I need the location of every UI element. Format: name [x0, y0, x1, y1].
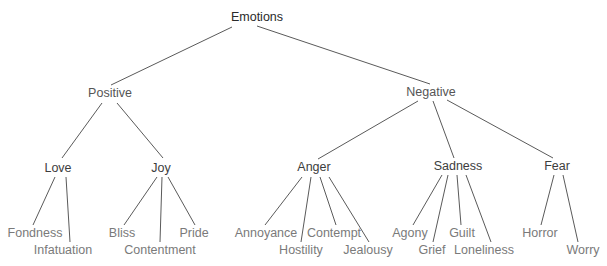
node-worry: Worry: [566, 243, 599, 257]
edge-negative-sadness: [433, 101, 454, 158]
node-sadness: Sadness: [434, 159, 483, 173]
node-infatuation: Infatuation: [34, 243, 92, 257]
node-negative: Negative: [406, 85, 455, 99]
edge-negative-fear: [447, 100, 553, 158]
node-fondness: Fondness: [8, 226, 63, 240]
node-joy: Joy: [151, 161, 170, 175]
node-hostility: Hostility: [279, 243, 323, 257]
node-horror: Horror: [522, 226, 557, 240]
node-bliss: Bliss: [109, 226, 135, 240]
node-agony: Agony: [392, 226, 427, 240]
node-contentment: Contentment: [124, 243, 196, 257]
edge-fear-horror: [541, 175, 554, 225]
edge-positive-love: [62, 103, 102, 158]
edge-positive-joy: [117, 103, 163, 158]
node-loneliness: Loneliness: [454, 243, 514, 257]
edge-emotions-positive: [111, 27, 232, 85]
node-anger: Anger: [297, 160, 330, 174]
node-positive: Positive: [88, 86, 132, 100]
edge-negative-anger: [318, 101, 418, 159]
edge-joy-contentment: [160, 177, 162, 242]
edge-emotions-negative: [257, 26, 430, 84]
edge-fear-worry: [563, 175, 578, 242]
node-jealousy: Jealousy: [343, 243, 392, 257]
edge-sadness-grief: [433, 175, 448, 242]
edge-sadness-agony: [413, 175, 442, 225]
edge-love-fondness: [33, 177, 55, 225]
node-guilt: Guilt: [449, 226, 475, 240]
node-pride: Pride: [179, 226, 208, 240]
edge-joy-pride: [168, 177, 195, 225]
edge-anger-annoyance: [265, 177, 302, 225]
edge-sadness-guilt: [457, 175, 461, 225]
node-love: Love: [44, 161, 71, 175]
edge-love-infatuation: [66, 177, 70, 242]
node-emotions: Emotions: [231, 10, 283, 24]
node-contempt: Contempt: [307, 226, 361, 240]
node-grief: Grief: [418, 243, 445, 257]
edge-joy-bliss: [124, 177, 157, 225]
emotion-tree-diagram: Emotions Positive Negative Love Joy Ange…: [0, 0, 607, 266]
tree-edges: [0, 0, 607, 266]
node-fear: Fear: [544, 159, 570, 173]
node-annoyance: Annoyance: [235, 226, 298, 240]
